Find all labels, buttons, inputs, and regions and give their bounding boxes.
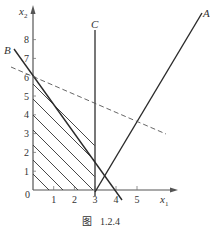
- svg-text:3: 3: [24, 128, 29, 139]
- y-axis-label: x2: [18, 5, 28, 20]
- x-tick-labels: 1 2 3 4 5: [51, 194, 139, 205]
- svg-text:2: 2: [72, 194, 77, 205]
- feasible-region-hatching: [33, 84, 95, 190]
- line-b: [14, 49, 122, 200]
- svg-text:1: 1: [51, 194, 56, 205]
- svg-text:5: 5: [24, 91, 29, 102]
- y-tick-labels: 1 2 3 4 5 6 7 8: [24, 34, 29, 177]
- svg-text:8: 8: [24, 34, 29, 45]
- svg-text:7: 7: [24, 53, 29, 64]
- svg-text:5: 5: [135, 194, 140, 205]
- label-b: B: [4, 44, 11, 56]
- x-axis-arrow-icon: [170, 188, 178, 193]
- x-axis-label: x1: [159, 193, 169, 208]
- svg-text:2: 2: [24, 147, 29, 158]
- origin-label: 0: [25, 189, 30, 200]
- svg-text:3: 3: [93, 194, 98, 205]
- svg-text:4: 4: [24, 109, 29, 120]
- svg-text:4: 4: [114, 194, 119, 205]
- svg-text:6: 6: [24, 72, 29, 83]
- label-c: C: [91, 18, 99, 30]
- label-a: A: [202, 7, 210, 19]
- figure-caption: 图1.2.4: [82, 216, 120, 227]
- y-axis-arrow-icon: [31, 5, 36, 14]
- line-a: [95, 13, 202, 192]
- svg-text:1: 1: [24, 166, 29, 177]
- linear-programming-diagram: A B C x2 x1 0 1 2 3 4 5 1 2 3 4 5 6 7 8 …: [0, 0, 210, 228]
